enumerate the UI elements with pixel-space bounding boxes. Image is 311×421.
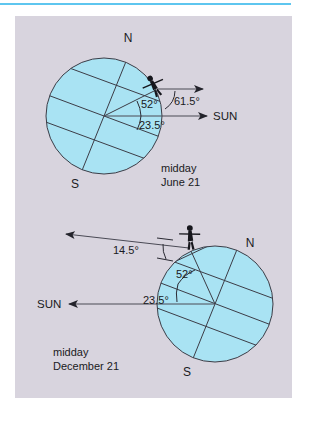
december-observer-person-icon — [179, 225, 201, 251]
december-horizon-tick-upper — [157, 238, 173, 240]
december-caption-line1: midday — [53, 346, 89, 358]
december-sun-label: SUN — [37, 298, 61, 310]
top-divider-rule — [0, 3, 291, 5]
june-sun-label: SUN — [213, 110, 237, 122]
june-globe-group: N S 52° 23.5° 61.5° SUN midday June 21 — [43, 31, 237, 191]
figure-panel: N S 52° 23.5° 61.5° SUN midday June 21 — [15, 16, 292, 398]
december-angle-horizon: 14.5° — [113, 244, 139, 256]
figure-page: N S 52° 23.5° 61.5° SUN midday June 21 — [0, 0, 311, 421]
june-north-label: N — [124, 31, 133, 45]
december-angle-latitude: 52° — [176, 268, 193, 280]
june-angle-latitude: 52° — [141, 98, 158, 110]
december-north-label: N — [246, 236, 255, 250]
december-south-label: S — [183, 365, 191, 379]
december-caption-line2: December 21 — [53, 360, 119, 372]
solstice-diagram: N S 52° 23.5° 61.5° SUN midday June 21 — [15, 16, 292, 398]
june-caption-line1: midday — [161, 162, 197, 174]
december-angle-tilt: 23.5° — [143, 294, 169, 306]
june-angle-horizon: 61.5° — [174, 95, 200, 107]
december-horizon-tick-lower — [157, 258, 173, 261]
june-angle-tilt: 23.5° — [139, 119, 165, 131]
december-globe-group: N S 52° 23.5° 14.5° SUN midday December … — [37, 225, 280, 379]
december-arc-horizon — [163, 244, 166, 259]
june-south-label: S — [71, 177, 79, 191]
june-caption-line2: June 21 — [161, 176, 200, 188]
